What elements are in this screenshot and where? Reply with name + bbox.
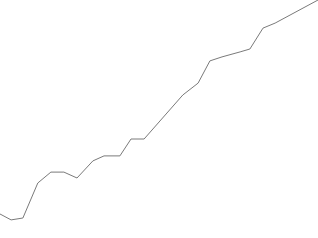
plot-area (0, 0, 318, 220)
series-line-1 (0, 0, 318, 220)
line-chart (0, 0, 318, 238)
